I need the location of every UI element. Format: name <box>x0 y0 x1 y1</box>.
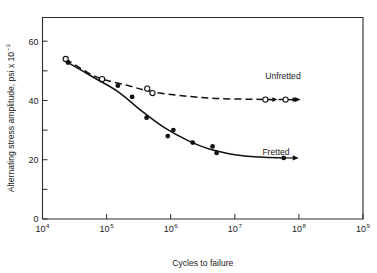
data-point-fretted <box>190 140 195 145</box>
x-tick-label: 108 <box>292 222 307 234</box>
data-point-fretted <box>210 144 215 149</box>
x-axis-ticks: 104105106107108109 <box>36 214 371 234</box>
x-tick-label: 105 <box>100 222 115 234</box>
data-point-fretted <box>115 83 120 88</box>
axes-group <box>43 18 364 220</box>
data-point-fretted <box>66 60 71 65</box>
series-annotations-group: UnfrettedFretted <box>262 71 301 157</box>
data-point-unfretted <box>263 97 268 102</box>
data-point-fretted <box>165 134 170 139</box>
x-axis-title: Cycles to failure <box>172 258 233 268</box>
data-point-fretted <box>214 151 219 156</box>
y-tick-label: 60 <box>28 37 38 47</box>
data-point-fretted <box>171 128 176 133</box>
data-point-fretted <box>144 115 149 120</box>
y-axis-title: Alternating stress amplitude, psi x 10−3 <box>5 44 16 193</box>
fatigue-sn-chart-figure: 104105106107108109 0204060 Cycles to fai… <box>0 0 377 273</box>
chart-canvas: 104105106107108109 0204060 Cycles to fai… <box>0 0 377 273</box>
series-curve-unfretted <box>66 59 286 100</box>
y-tick-label: 20 <box>28 155 38 165</box>
x-tick-label: 109 <box>356 222 371 234</box>
data-point-unfretted <box>150 90 155 95</box>
data-point-fretted <box>130 95 135 100</box>
x-tick-label: 106 <box>164 222 179 234</box>
annotation-fretted: Fretted <box>262 147 289 157</box>
x-tick-label: 107 <box>228 222 243 234</box>
data-point-unfretted <box>283 97 288 102</box>
annotation-unfretted: Unfretted <box>265 71 301 81</box>
series-fretted <box>66 60 299 160</box>
y-tick-label: 40 <box>28 96 38 106</box>
y-tick-label: 0 <box>33 214 38 224</box>
runout-marker-head <box>272 97 277 102</box>
y-axis-ticks: 0204060 <box>28 37 47 225</box>
axis-titles-group: Cycles to failureAlternating stress ampl… <box>5 44 234 268</box>
plot-frame <box>43 18 364 220</box>
data-point-unfretted <box>145 86 150 91</box>
runout-arrow-head-fretted <box>293 155 299 160</box>
